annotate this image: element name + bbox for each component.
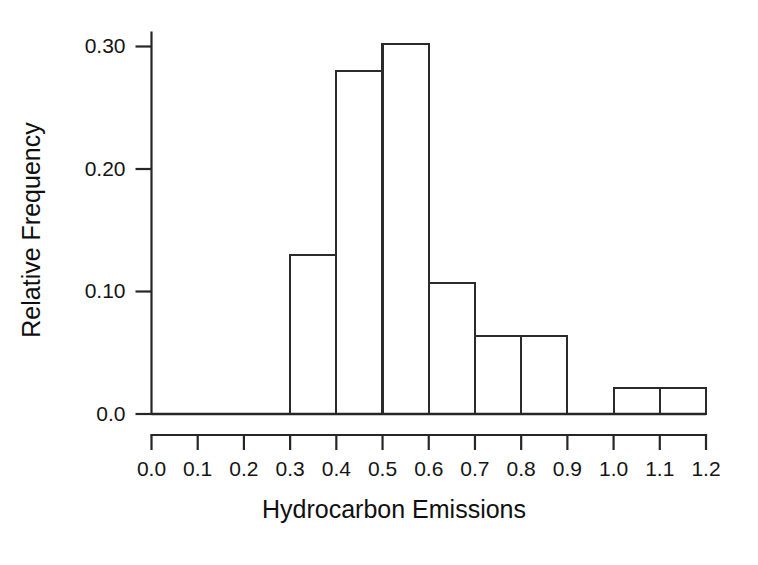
histogram-bar bbox=[429, 283, 475, 414]
x-tick-label: 0.3 bbox=[276, 457, 305, 480]
x-tick-label: 1.1 bbox=[645, 457, 674, 480]
x-tick-label: 0.2 bbox=[229, 457, 258, 480]
histogram-bar bbox=[614, 388, 660, 414]
y-tick-label: 0.0 bbox=[96, 402, 125, 425]
y-tick-label: 0.10 bbox=[85, 279, 126, 302]
x-axis-ticks bbox=[152, 435, 707, 450]
x-tick-label: 1.0 bbox=[599, 457, 628, 480]
y-tick-label: 0.20 bbox=[85, 157, 126, 180]
histogram-bar bbox=[660, 388, 706, 414]
y-axis-tick-labels: 0.00.100.200.30 bbox=[85, 34, 126, 425]
y-tick-label: 0.30 bbox=[85, 34, 126, 57]
bars-group bbox=[290, 44, 706, 414]
x-tick-label: 0.1 bbox=[183, 457, 212, 480]
x-tick-label: 0.5 bbox=[368, 457, 397, 480]
x-tick-label: 0.7 bbox=[460, 457, 489, 480]
x-tick-label: 0.0 bbox=[137, 457, 166, 480]
x-tick-label: 0.4 bbox=[322, 457, 352, 480]
x-tick-label: 1.2 bbox=[691, 457, 720, 480]
x-tick-label: 0.9 bbox=[553, 457, 582, 480]
x-axis-tick-labels: 0.00.10.20.30.40.50.60.70.80.91.01.11.2 bbox=[137, 457, 721, 480]
chart-canvas: 0.00.100.200.30 0.00.10.20.30.40.50.60.7… bbox=[0, 0, 758, 565]
histogram-figure: 0.00.100.200.30 0.00.10.20.30.40.50.60.7… bbox=[0, 0, 758, 565]
x-axis-title: Hydrocarbon Emissions bbox=[262, 495, 526, 523]
histogram-bar bbox=[336, 71, 382, 414]
histogram-bar bbox=[290, 255, 336, 414]
y-axis-ticks bbox=[136, 47, 152, 415]
histogram-bar bbox=[383, 44, 429, 414]
histogram-bar bbox=[475, 336, 521, 414]
x-tick-label: 0.6 bbox=[414, 457, 443, 480]
y-axis-title: Relative Frequency bbox=[17, 122, 45, 338]
histogram-bar bbox=[521, 336, 567, 414]
x-tick-label: 0.8 bbox=[507, 457, 536, 480]
